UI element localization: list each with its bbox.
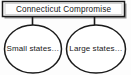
root-label: Connecticut Compromise	[16, 5, 112, 14]
large-states-label: Large states…	[69, 44, 122, 53]
diagram-canvas: Connecticut Compromise Small states… Lar…	[0, 0, 131, 75]
small-states-label: Small states…	[7, 44, 60, 53]
